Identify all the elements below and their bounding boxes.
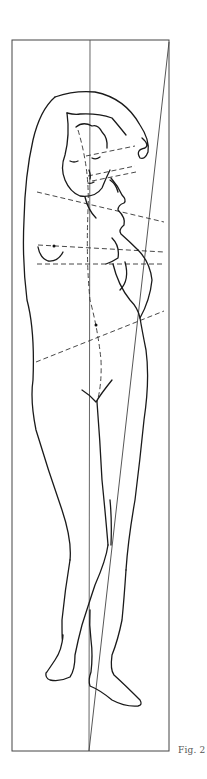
figure-outline xyxy=(23,92,152,707)
diagonal-guide xyxy=(89,42,169,751)
tilt-lines xyxy=(36,130,164,402)
figure-caption: Fig. 2 xyxy=(178,745,206,755)
proportion-frame xyxy=(12,40,169,751)
figure: Fig. 2 xyxy=(0,0,207,779)
figure-drawing xyxy=(0,0,207,779)
